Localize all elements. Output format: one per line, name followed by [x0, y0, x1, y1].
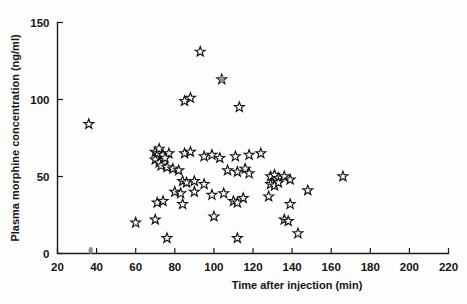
scatter-plot-figure: 20406080100120140160180200220050100150 T…: [0, 0, 467, 304]
ink-speck: [220, 76, 224, 83]
x-axis-title: Time after injection (min): [232, 279, 363, 291]
data-point-marker: [338, 171, 348, 180]
data-point-marker: [195, 47, 205, 56]
x-tick-label-80: 80: [168, 261, 181, 273]
ink-speck: [89, 247, 93, 254]
data-point-marker: [162, 233, 172, 242]
data-point-marker: [84, 119, 94, 128]
x-tick-label-100: 100: [204, 261, 223, 273]
y-tick-label-50: 50: [37, 171, 50, 183]
data-point-marker: [285, 199, 295, 208]
data-point-marker: [256, 148, 266, 157]
data-point-marker: [131, 218, 141, 227]
data-point-marker: [207, 190, 217, 199]
data-point-marker: [264, 191, 274, 200]
data-point-marker: [199, 179, 209, 188]
x-tick-label-20: 20: [51, 261, 64, 273]
y-tick-label-0: 0: [43, 248, 49, 260]
data-point-marker: [232, 233, 242, 242]
x-tick-label-60: 60: [129, 261, 142, 273]
x-tick-label-140: 140: [283, 261, 302, 273]
x-tick-label-40: 40: [90, 261, 103, 273]
data-point-marker: [189, 187, 199, 196]
y-tick-label-150: 150: [30, 17, 49, 29]
data-point-marker: [293, 228, 303, 237]
x-tick-label-220: 220: [439, 261, 458, 273]
data-point-marker: [207, 150, 217, 159]
tick-labels-group: 20406080100120140160180200220050100150: [30, 17, 458, 273]
data-point-marker: [234, 102, 244, 111]
data-point-marker: [199, 151, 209, 160]
x-tick-label-120: 120: [243, 261, 262, 273]
plot-canvas: 20406080100120140160180200220050100150 T…: [0, 0, 467, 304]
axis-spine-lines: [58, 23, 449, 254]
axes-group: [58, 23, 449, 254]
data-point-marker: [244, 150, 254, 159]
data-point-marker: [150, 214, 160, 223]
data-point-marker: [178, 199, 188, 208]
x-tick-label-200: 200: [400, 261, 419, 273]
data-point-marker: [209, 211, 219, 220]
x-tick-label-180: 180: [361, 261, 380, 273]
x-tick-label-160: 160: [322, 261, 341, 273]
data-point-marker: [230, 151, 240, 160]
data-point-marker: [189, 176, 199, 185]
data-point-marker: [219, 188, 229, 197]
data-point-marker: [303, 185, 313, 194]
y-tick-label-100: 100: [30, 94, 49, 106]
data-markers-group: [84, 47, 348, 243]
ticks-group: [58, 23, 449, 254]
y-axis-title: Plasma morphine concentration (ng/ml): [9, 34, 21, 242]
